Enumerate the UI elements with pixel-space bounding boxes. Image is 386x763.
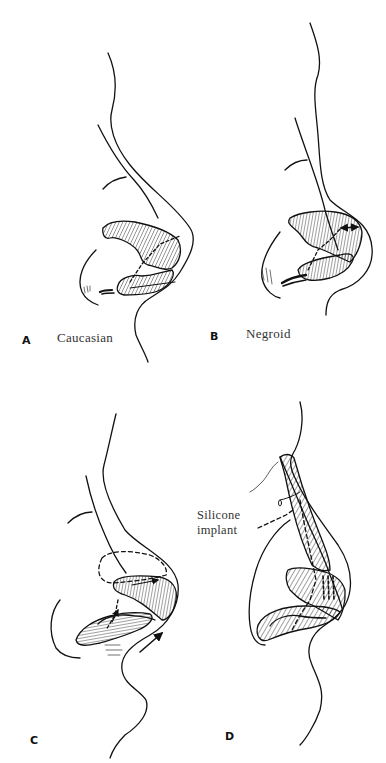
panel-a-drawing [80,53,193,362]
annotation-line-2: implant [197,523,240,538]
panel-a-caption: Caucasian [57,330,113,346]
panel-c-letter: C [30,734,38,747]
panel-d-letter: D [225,730,234,743]
silicone-implant-annotation: Silicone implant [197,508,240,538]
panel-c-drawing [51,414,178,758]
panel-a-letter: A [22,334,31,347]
panel-b-caption: Negroid [246,326,291,342]
annotation-line-1: Silicone [197,508,240,523]
panel-b-letter: B [210,330,218,343]
panel-d-drawing [249,402,350,745]
nasal-anatomy-figure: A Caucasian B Negroid C D Silicone impla… [0,0,386,763]
panel-b-drawing [262,23,372,315]
figure-drawings [0,0,386,763]
